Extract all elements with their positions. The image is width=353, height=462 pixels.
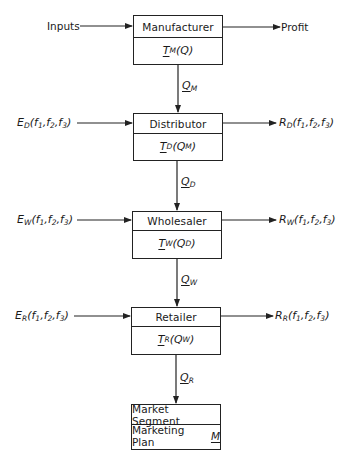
func-arg: Q bbox=[177, 140, 186, 153]
marketing-plan: Marketing Plan M bbox=[132, 423, 220, 449]
q-sub: M bbox=[191, 84, 197, 93]
q-symbol: Q bbox=[181, 273, 190, 286]
wholesaler-node: Wholesaler TW(QD) bbox=[132, 211, 222, 259]
q-symbol: Q bbox=[182, 79, 191, 92]
paren-close: ) bbox=[67, 116, 71, 129]
func-arg: Q bbox=[174, 333, 183, 346]
paren-close: ) bbox=[325, 309, 329, 322]
paren-close: ) bbox=[331, 213, 335, 226]
q-symbol: Q bbox=[181, 175, 190, 188]
rw-label: RW(f1,f2,f3) bbox=[279, 213, 336, 230]
manufacturer-node: Manufacturer TM(Q) bbox=[133, 15, 223, 65]
market-segment-node: Market Segment Marketing Plan M bbox=[131, 404, 221, 450]
flow-qd-label: QD bbox=[181, 175, 195, 189]
market-segment-title: Market Segment bbox=[132, 405, 220, 425]
rd-label: RD(f1,f2,f3) bbox=[279, 116, 334, 133]
func-symbol: T bbox=[158, 333, 165, 346]
e-symbol: E bbox=[17, 213, 24, 226]
e-symbol: E bbox=[17, 116, 24, 129]
marketing-plan-symbol: M bbox=[211, 430, 220, 442]
paren-close: ) bbox=[69, 213, 73, 226]
e-symbol: E bbox=[15, 309, 22, 322]
q-sub: W bbox=[190, 278, 197, 287]
paren-close: ) bbox=[192, 140, 196, 153]
flow-qm-label: QM bbox=[182, 79, 197, 93]
marketing-plan-label: Marketing Plan bbox=[132, 424, 208, 448]
flow-qr-label: QR bbox=[180, 371, 194, 385]
paren-close: ) bbox=[330, 116, 334, 129]
rr-label: RR(f1,f2,f3) bbox=[275, 309, 329, 326]
wholesaler-function: TW(QD) bbox=[133, 229, 221, 258]
q-symbol: Q bbox=[180, 371, 189, 384]
distributor-node: Distributor TD(QM) bbox=[133, 113, 223, 161]
flow-qw-label: QW bbox=[181, 273, 197, 287]
r-symbol: R bbox=[275, 309, 283, 322]
paren-close: ) bbox=[64, 309, 68, 322]
r-symbol: R bbox=[279, 116, 287, 129]
func-arg-sub: W bbox=[183, 335, 190, 344]
ed-label: ED(f1,f2,f3) bbox=[17, 116, 71, 133]
q-sub: D bbox=[190, 180, 196, 189]
manufacturer-title: Manufacturer bbox=[134, 16, 222, 38]
er-label: ER(f1,f2,f3) bbox=[15, 309, 69, 326]
distributor-function: TD(QM) bbox=[134, 132, 222, 160]
paren-close: ) bbox=[190, 333, 194, 346]
ew-label: EW(f1,f2,f3) bbox=[17, 213, 73, 230]
manufacturer-function: TM(Q) bbox=[134, 36, 222, 64]
func-symbol: T bbox=[158, 237, 165, 250]
paren-close: ) bbox=[191, 237, 195, 250]
r-sub: W bbox=[287, 218, 294, 227]
func-sub: W bbox=[165, 239, 172, 248]
func-arg: Q bbox=[180, 44, 189, 57]
r-symbol: R bbox=[279, 213, 287, 226]
inputs-label: Inputs bbox=[47, 19, 80, 33]
func-symbol: T bbox=[163, 44, 170, 57]
paren-close: ) bbox=[189, 44, 193, 57]
retailer-function: TR(QW) bbox=[132, 325, 220, 354]
retailer-node: Retailer TR(QW) bbox=[131, 307, 221, 355]
q-sub: R bbox=[189, 376, 194, 385]
distributor-title: Distributor bbox=[134, 114, 222, 134]
func-arg: Q bbox=[177, 237, 186, 250]
func-symbol: T bbox=[160, 140, 167, 153]
profit-label: Profit bbox=[281, 20, 308, 34]
